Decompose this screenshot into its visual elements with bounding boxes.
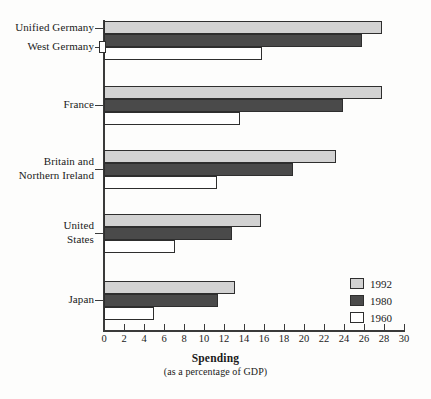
x-tick-0 <box>104 324 105 331</box>
legend-swatch-1980 <box>350 295 364 306</box>
x-tick-label-10: 10 <box>199 333 210 345</box>
cat-label-unified-germany: Unified Germany <box>15 21 94 34</box>
x-tick-label-8: 8 <box>181 333 186 345</box>
x-tick-label-6: 6 <box>161 333 166 345</box>
west-germany-marker <box>99 41 106 53</box>
cat-tick-unified-germany <box>95 28 104 29</box>
x-tick-label-16: 16 <box>259 333 270 345</box>
spending-bar-chart: Unified Germany West Germany France Brit… <box>0 0 431 399</box>
cat-label-britain-line1: Britain and <box>44 155 94 168</box>
x-tick-8 <box>184 324 185 331</box>
x-tick-6 <box>164 324 165 331</box>
x-tick-16 <box>264 324 265 331</box>
x-tick-12 <box>224 324 225 331</box>
legend-label-1960: 1960 <box>370 312 392 324</box>
cat-tick-united-states <box>95 233 104 234</box>
x-tick-label-2: 2 <box>121 333 126 345</box>
bar-germany-1992 <box>104 21 382 34</box>
bar-france-1992 <box>104 86 382 99</box>
x-tick-18 <box>284 324 285 331</box>
cat-tick-britain <box>95 169 104 170</box>
cat-tick-japan <box>95 300 104 301</box>
x-tick-label-28: 28 <box>379 333 390 345</box>
bar-japan-1960 <box>104 307 154 320</box>
x-axis-line <box>103 330 405 332</box>
x-axis-title: Spending <box>0 352 431 364</box>
x-tick-label-26: 26 <box>359 333 370 345</box>
x-tick-10 <box>204 324 205 331</box>
cat-label-west-germany: West Germany <box>27 40 94 53</box>
x-axis-subtitle: (as a percentage of GDP) <box>0 366 431 377</box>
x-tick-label-22: 22 <box>319 333 330 345</box>
bar-france-1960 <box>104 112 240 125</box>
legend-label-1992: 1992 <box>370 278 392 290</box>
cat-label-japan: Japan <box>68 293 94 306</box>
legend-item-1980: 1980 <box>350 293 422 308</box>
x-tick-20 <box>304 324 305 331</box>
cat-label-us-line2: States <box>67 233 94 246</box>
x-tick-14 <box>244 324 245 331</box>
bar-germany-1980 <box>104 34 362 47</box>
cat-label-britain-line2: Northern Ireland <box>19 169 94 182</box>
x-tick-label-20: 20 <box>299 333 310 345</box>
bar-united-states-1960 <box>104 240 175 253</box>
bar-japan-1992 <box>104 281 235 294</box>
bar-britain-1960 <box>104 176 217 189</box>
legend-item-1960: 1960 <box>350 310 422 325</box>
x-tick-label-24: 24 <box>339 333 350 345</box>
x-tick-label-4: 4 <box>141 333 146 345</box>
bar-britain-1992 <box>104 150 336 163</box>
x-tick-4 <box>144 324 145 331</box>
x-tick-label-14: 14 <box>239 333 250 345</box>
bar-france-1980 <box>104 99 343 112</box>
x-tick-label-30: 30 <box>399 333 410 345</box>
cat-label-us-line1: United <box>63 219 94 232</box>
bar-united-states-1980 <box>104 227 232 240</box>
cat-label-france: France <box>63 98 94 111</box>
x-tick-2 <box>124 324 125 331</box>
cat-tick-france <box>95 105 104 106</box>
x-tick-24 <box>344 324 345 331</box>
bar-united-states-1992 <box>104 214 261 227</box>
legend-swatch-1992 <box>350 278 364 289</box>
legend-item-1992: 1992 <box>350 276 422 291</box>
legend-swatch-1960 <box>350 312 364 323</box>
x-tick-22 <box>324 324 325 331</box>
bar-britain-1980 <box>104 163 293 176</box>
x-tick-label-18: 18 <box>279 333 290 345</box>
x-tick-label-0: 0 <box>101 333 106 345</box>
bar-germany-1960 <box>104 47 262 60</box>
chart-legend: 1992 1980 1960 <box>350 276 422 327</box>
x-tick-label-12: 12 <box>219 333 230 345</box>
bar-japan-1980 <box>104 294 218 307</box>
plot-area: Unified Germany West Germany France Brit… <box>0 0 431 399</box>
legend-label-1980: 1980 <box>370 295 392 307</box>
